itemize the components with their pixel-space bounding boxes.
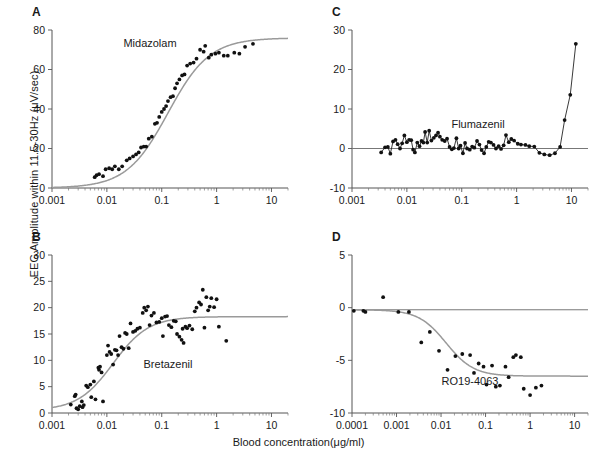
drug-label-b: Bretazenil xyxy=(144,358,193,370)
data-point xyxy=(468,353,472,357)
data-point xyxy=(101,400,105,404)
x-tick-label: 0.001 xyxy=(383,419,409,431)
data-point xyxy=(243,45,247,49)
x-tick-label: 0.1 xyxy=(478,419,493,431)
data-point xyxy=(480,148,484,152)
data-point xyxy=(88,383,92,387)
data-point xyxy=(157,115,161,119)
data-point xyxy=(386,145,390,149)
data-point xyxy=(101,174,105,178)
y-tick-label: 5 xyxy=(339,249,345,261)
data-point xyxy=(146,305,150,309)
data-point xyxy=(453,354,457,358)
data-point xyxy=(455,136,459,140)
data-point xyxy=(209,296,213,300)
x-tick-label: 0.01 xyxy=(97,419,118,431)
data-point xyxy=(563,118,567,122)
data-point xyxy=(477,362,481,366)
data-point xyxy=(396,142,400,146)
y-tick-label: 0 xyxy=(339,301,345,313)
panel-b: B0510152025300.0010.010.1110Bretazenil xyxy=(32,230,288,431)
data-point xyxy=(519,143,523,147)
data-point xyxy=(452,146,456,150)
data-point xyxy=(100,371,104,375)
y-tick-label: -5 xyxy=(336,354,345,366)
data-point xyxy=(425,141,429,145)
data-point xyxy=(115,348,119,352)
y-tick-label: 30 xyxy=(333,24,345,36)
data-point xyxy=(484,145,488,149)
panel-a: A0204060800.0010.010.1110Midazolam xyxy=(32,5,288,206)
y-tick-label: 80 xyxy=(33,24,45,36)
data-point xyxy=(482,151,486,155)
data-point xyxy=(516,142,520,146)
data-point xyxy=(418,144,422,148)
data-point xyxy=(398,147,402,151)
data-point xyxy=(553,151,557,155)
data-point xyxy=(82,403,86,407)
data-point xyxy=(206,308,210,312)
data-point xyxy=(193,309,197,313)
data-point xyxy=(222,54,226,58)
x-tick-label: 1 xyxy=(527,419,533,431)
data-point xyxy=(528,393,532,397)
data-point xyxy=(137,151,141,155)
x-tick-label: 0.1 xyxy=(154,194,169,206)
x-tick-label: 0.001 xyxy=(39,194,65,206)
data-point xyxy=(173,86,177,90)
data-point xyxy=(188,62,192,66)
data-point xyxy=(121,347,125,351)
x-tick-label: 0.1 xyxy=(454,194,469,206)
data-point xyxy=(148,323,152,327)
data-point xyxy=(125,332,129,336)
data-point xyxy=(524,143,528,147)
y-tick-label: 0 xyxy=(39,407,45,419)
drug-label-d: RO19-4063 xyxy=(442,375,499,387)
panel-d: D-10-5050.00010.0010.010.1110RO19-4063 xyxy=(330,230,588,431)
data-point xyxy=(514,353,518,357)
data-point xyxy=(141,311,145,315)
data-point xyxy=(178,77,182,81)
data-point xyxy=(188,324,192,328)
panel-c: C-1001020300.0010.010.1110Flumazenil xyxy=(330,5,588,206)
data-point xyxy=(111,363,115,367)
data-point xyxy=(97,172,101,176)
y-tick-label: 20 xyxy=(333,63,345,75)
data-point xyxy=(445,137,449,141)
data-point xyxy=(192,61,196,65)
data-point xyxy=(460,352,464,356)
data-point xyxy=(157,320,161,324)
data-point xyxy=(527,144,531,148)
x-tick-label: 10 xyxy=(566,194,578,206)
data-point xyxy=(499,147,503,151)
data-point xyxy=(504,133,508,137)
y-tick-label: 10 xyxy=(33,354,45,366)
data-point xyxy=(208,305,212,309)
data-point xyxy=(461,151,465,155)
data-point xyxy=(217,51,221,55)
data-point xyxy=(574,42,578,46)
data-point xyxy=(180,338,184,342)
data-point xyxy=(542,153,546,157)
y-tick-label: 5 xyxy=(39,380,45,392)
x-tick-label: 0.001 xyxy=(339,194,365,206)
data-point xyxy=(80,400,84,404)
data-point xyxy=(203,44,207,48)
figure-x-axis-label: Blood concentration(μg/ml) xyxy=(0,436,597,448)
data-point xyxy=(512,139,516,143)
data-point xyxy=(89,395,93,399)
data-point xyxy=(195,306,199,310)
data-point xyxy=(118,334,122,338)
figure-y-axis-label: EEG Amplitude within 11.5-30Hz (μV/sec) xyxy=(28,44,40,304)
data-point xyxy=(364,310,368,314)
x-tick-label: 0.01 xyxy=(397,194,418,206)
data-point xyxy=(152,311,156,315)
data-point xyxy=(498,384,502,388)
x-tick-label: 0.1 xyxy=(154,419,169,431)
data-point xyxy=(144,145,148,149)
data-point xyxy=(251,42,255,46)
data-point xyxy=(459,144,463,148)
data-point xyxy=(379,151,383,155)
x-tick-label: 10 xyxy=(266,419,278,431)
data-point xyxy=(190,327,194,331)
